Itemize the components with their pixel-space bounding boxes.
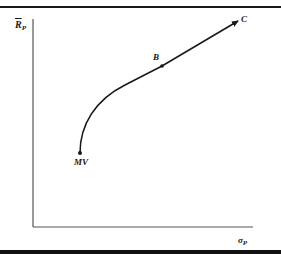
frontier-curve xyxy=(80,21,238,153)
mv-point xyxy=(78,151,82,155)
bottom-border-rule xyxy=(0,250,281,254)
y-axis-label: RP xyxy=(15,20,26,32)
x-axis-label: σP xyxy=(238,236,247,247)
b-point xyxy=(160,64,164,68)
chart-plot-area xyxy=(0,0,281,254)
b-label: B xyxy=(153,53,159,62)
mv-label: MV xyxy=(74,158,88,167)
c-label: C xyxy=(241,15,247,24)
